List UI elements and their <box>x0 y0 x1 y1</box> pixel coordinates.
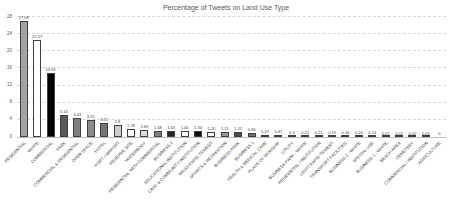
bar-value-label: 0.16 <box>342 131 350 135</box>
bar-value-label: 14.93 <box>46 68 56 72</box>
bar-slot: 1.40 <box>178 17 191 137</box>
bar-slot: 0.3 <box>285 17 298 137</box>
bar-slot: 0.02 <box>392 17 405 137</box>
bar-slot: 0.16 <box>352 17 365 137</box>
bar-slot: 27.08 <box>17 17 30 137</box>
bar-slot: 1.15 <box>218 17 231 137</box>
bar <box>140 130 148 137</box>
bar-slot: 1.69 <box>138 17 151 137</box>
bar-value-label: 0.96 <box>248 128 256 132</box>
bar-value-label: 0.47 <box>261 130 269 134</box>
bar <box>100 123 108 137</box>
bar-value-label: 5.14 <box>60 110 68 114</box>
bar-value-label: 0.02 <box>395 132 403 136</box>
bar-value-label: 1.20 <box>207 127 215 131</box>
bar-slot: 1.20 <box>205 17 218 137</box>
bar-value-label: 27.08 <box>19 16 29 20</box>
bar <box>33 40 41 137</box>
bar-chart: Percentage of Tweets on Land Use Type 04… <box>0 0 452 207</box>
bar-slot: 4.43 <box>71 17 84 137</box>
bar-slot: 0.16 <box>339 17 352 137</box>
bar <box>288 135 296 137</box>
bar-value-label: 0.02 <box>422 132 430 136</box>
bar <box>73 118 81 137</box>
bar-slot: 1.78 <box>124 17 137 137</box>
bar-slot: 3.21 <box>97 17 110 137</box>
bar-value-label: 2.8 <box>115 120 121 124</box>
bar-value-label: 0.14 <box>368 131 376 135</box>
y-axis: 0481216202428 <box>0 17 15 137</box>
bar-value-label: 3.21 <box>100 118 108 122</box>
bar <box>315 135 323 137</box>
bar-slot: 0.96 <box>245 17 258 137</box>
bar-value-label: 1.43 <box>167 126 175 130</box>
bar <box>114 125 122 137</box>
bar-value-label: 0.3 <box>289 131 295 135</box>
bar <box>194 131 202 137</box>
bar-value-label: 3.91 <box>87 115 95 119</box>
bar-slot: 0.21 <box>299 17 312 137</box>
bar <box>207 132 215 137</box>
bar-slot: 0.47 <box>272 17 285 137</box>
bar-slot: 0.02 <box>406 17 419 137</box>
bar <box>20 21 28 137</box>
bar-value-label: 1.15 <box>221 127 229 131</box>
bar-slot: 0.47 <box>258 17 271 137</box>
bar <box>301 135 309 137</box>
bar <box>154 131 162 137</box>
bar-value-label: 0.19 <box>328 131 336 135</box>
bar <box>47 73 55 137</box>
bar-slot: 0.21 <box>312 17 325 137</box>
bar <box>167 131 175 137</box>
bar <box>221 132 229 137</box>
y-tick-label: 0 <box>9 135 12 140</box>
y-tick-label: 4 <box>9 118 12 123</box>
bar-value-label: 0.02 <box>409 132 417 136</box>
bar <box>248 133 256 137</box>
bar <box>234 132 242 137</box>
y-tick-label: 20 <box>7 49 12 54</box>
bar <box>328 135 336 137</box>
bar <box>274 135 282 137</box>
bar <box>60 115 68 137</box>
bar-slot: 5.14 <box>57 17 70 137</box>
bar-value-label: 4.43 <box>73 113 81 117</box>
bar-value-label: 1.69 <box>140 125 148 129</box>
y-tick-label: 28 <box>7 15 12 20</box>
bar-slot: 0.02 <box>419 17 432 137</box>
bar-value-label: 1.34 <box>194 126 202 130</box>
plot-area: 27.0822.5714.935.144.433.913.212.81.781.… <box>17 17 446 138</box>
bar-value-label: 0.07 <box>382 132 390 136</box>
bar-slot: 1.43 <box>164 17 177 137</box>
y-tick-label: 16 <box>7 66 12 71</box>
bar-value-label: 0.21 <box>301 131 309 135</box>
bar-slot: 0 <box>433 17 446 137</box>
bar-slot: 1.48 <box>151 17 164 137</box>
chart-title: Percentage of Tweets on Land Use Type <box>0 4 452 11</box>
x-axis: RESIDENTIALWHITECOMMERCIALPARKCOMMERCIAL… <box>17 140 446 207</box>
y-tick-label: 24 <box>7 32 12 37</box>
bar-slot: 1.12 <box>232 17 245 137</box>
bar-slot: 14.93 <box>44 17 57 137</box>
bar-value-label: 22.57 <box>32 35 42 39</box>
bar-slot: 2.8 <box>111 17 124 137</box>
bar-slot: 0.19 <box>325 17 338 137</box>
y-tick-label: 12 <box>7 83 12 88</box>
bar <box>261 135 269 137</box>
bar-slot: 0.07 <box>379 17 392 137</box>
bar-value-label: 1.12 <box>234 127 242 131</box>
bar-slot: 3.91 <box>84 17 97 137</box>
bar-value-label: 1.40 <box>181 126 189 130</box>
bar-value-label: 0.21 <box>315 131 323 135</box>
bar-value-label: 0.47 <box>275 130 283 134</box>
bar-slot: 22.57 <box>30 17 43 137</box>
bar-value-label: 1.78 <box>127 124 135 128</box>
bar-value-label: 0 <box>438 132 440 136</box>
bar-slot: 1.34 <box>191 17 204 137</box>
bar <box>87 120 95 137</box>
bar-value-label: 0.16 <box>355 131 363 135</box>
bar <box>181 131 189 137</box>
bar-value-label: 1.48 <box>154 126 162 130</box>
y-tick-label: 8 <box>9 100 12 105</box>
bar <box>127 129 135 137</box>
